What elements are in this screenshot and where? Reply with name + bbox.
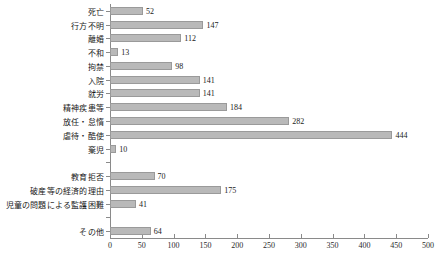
chart-row: 不和13: [110, 45, 428, 59]
bar: [110, 227, 151, 235]
x-tick-label: 100: [168, 241, 180, 250]
bar-value-label: 175: [224, 185, 236, 194]
x-tick: [428, 234, 429, 238]
category-label: 拘禁: [88, 60, 104, 71]
category-label: 棄児: [88, 143, 104, 154]
category-label: その他: [79, 226, 104, 237]
chart-row: 教育拒否70: [110, 169, 428, 183]
x-tick-label: 450: [390, 241, 402, 250]
bar-value-label: 141: [203, 89, 215, 98]
category-label: 児童の問題による監護困難: [6, 198, 104, 209]
chart-row: 精神疾患等184: [110, 100, 428, 114]
bar-value-label: 184: [230, 103, 242, 112]
x-axis-line: 050100150200250300350400450500: [110, 238, 428, 239]
bar: [110, 21, 203, 29]
bar: [110, 131, 392, 139]
x-tick-label: 250: [263, 241, 275, 250]
bar: [110, 117, 289, 125]
category-label: 入院: [88, 74, 104, 85]
bar: [110, 103, 227, 111]
category-label: 不和: [88, 47, 104, 58]
bar: [110, 48, 118, 56]
bar-value-label: 13: [121, 48, 129, 57]
bar-value-label: 147: [206, 20, 218, 29]
x-tick-label: 300: [295, 241, 307, 250]
chart-row: その他64: [110, 224, 428, 238]
chart-row: 就労141: [110, 87, 428, 101]
y-tick: [106, 162, 110, 163]
y-tick: [106, 217, 110, 218]
bar-value-label: 10: [119, 144, 127, 153]
bar: [110, 7, 143, 15]
x-tick-label: 200: [231, 241, 243, 250]
bar-chart: 050100150200250300350400450500 死亡52行方不明1…: [0, 0, 438, 260]
category-label: 教育拒否: [71, 171, 104, 182]
category-label: 虐待・酷使: [63, 129, 104, 140]
bar-value-label: 41: [139, 199, 147, 208]
category-label: 破産等の経済的理由: [30, 184, 104, 195]
x-tick-label: 350: [327, 241, 339, 250]
chart-row: 離婚112: [110, 32, 428, 46]
category-label: 死亡: [88, 5, 104, 16]
bar-value-label: 70: [158, 172, 166, 181]
bar-value-label: 141: [203, 75, 215, 84]
x-tick-label: 400: [358, 241, 370, 250]
bar-value-label: 112: [184, 34, 196, 43]
x-tick-label: 150: [199, 241, 211, 250]
x-tick-label: 50: [138, 241, 146, 250]
bar-value-label: 282: [292, 116, 304, 125]
chart-row: 死亡52: [110, 4, 428, 18]
bar: [110, 186, 221, 194]
chart-row: [110, 210, 428, 224]
bar: [110, 200, 136, 208]
plot-area: 死亡52行方不明147離婚112不和13拘禁98入院141就労141精神疾患等1…: [110, 4, 428, 238]
chart-row: 放任・怠惰282: [110, 114, 428, 128]
chart-row: 行方不明147: [110, 18, 428, 32]
category-label: 放任・怠惰: [63, 115, 104, 126]
chart-row: 虐待・酷使444: [110, 128, 428, 142]
chart-row: 破産等の経済的理由175: [110, 183, 428, 197]
category-label: 就労: [88, 88, 104, 99]
chart-row: 拘禁98: [110, 59, 428, 73]
chart-row: 入院141: [110, 73, 428, 87]
x-tick-label: 0: [108, 241, 112, 250]
bar-value-label: 444: [395, 130, 407, 139]
chart-row: [110, 155, 428, 169]
bar: [110, 89, 200, 97]
bar-value-label: 98: [175, 61, 183, 70]
category-label: 離婚: [88, 33, 104, 44]
category-label: 精神疾患等: [63, 102, 104, 113]
bar: [110, 145, 116, 153]
category-label: 行方不明: [71, 19, 104, 30]
chart-row: 児童の問題による監護困難41: [110, 197, 428, 211]
bar-value-label: 64: [154, 227, 162, 236]
bar: [110, 62, 172, 70]
x-tick-label: 500: [422, 241, 434, 250]
bar: [110, 172, 155, 180]
bar-value-label: 52: [146, 6, 154, 15]
bar: [110, 34, 181, 42]
chart-row: 棄児10: [110, 142, 428, 156]
bar: [110, 76, 200, 84]
